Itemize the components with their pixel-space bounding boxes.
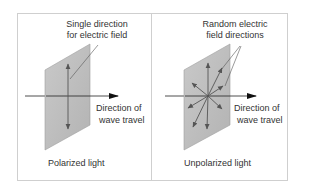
panel-caption-polarized: Polarized light (48, 158, 105, 169)
callout-label-line-2: for electric field (62, 30, 132, 41)
travel-label-line-2: wave travel (99, 115, 145, 126)
polarizer-plate (45, 44, 90, 150)
polarized-diagram (25, 44, 118, 150)
travel-label-line-1: Direction of (96, 103, 142, 114)
callout-label-line-1: Random electric (199, 19, 271, 30)
travel-label-line-1: Direction of (234, 103, 280, 114)
callout-label-line-1: Single direction (62, 19, 132, 30)
callout-label-line-2: field directions (199, 30, 271, 41)
travel-label-line-2: wave travel (237, 115, 283, 126)
panel-caption-unpolarized: Unpolarized light (184, 158, 251, 169)
unpolarized-diagram (165, 44, 256, 150)
